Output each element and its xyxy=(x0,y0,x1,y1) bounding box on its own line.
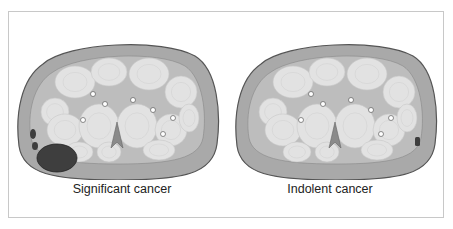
vessel xyxy=(151,108,156,113)
bowel-loop xyxy=(273,66,313,98)
bowel-loop xyxy=(347,58,387,90)
caption-indolent: Indolent cancer xyxy=(221,182,439,196)
vessel xyxy=(91,92,96,97)
bowel-loop xyxy=(179,104,199,132)
lesion-small xyxy=(30,129,36,139)
vessel xyxy=(81,118,86,123)
panel-indolent-cancer: Indolent cancer xyxy=(227,12,445,217)
bowel-loop xyxy=(47,114,83,146)
vessel xyxy=(349,98,354,103)
caption-significant: Significant cancer xyxy=(13,182,231,196)
vessel xyxy=(161,132,166,137)
bowel-loop xyxy=(315,142,339,162)
vessel xyxy=(309,92,314,97)
bowel-loop xyxy=(265,114,301,146)
bowel-loop xyxy=(129,58,169,90)
vessel xyxy=(379,132,384,137)
bowel-loop xyxy=(143,140,175,160)
bowel-loop xyxy=(361,140,393,160)
panel-significant-cancer: Significant cancer xyxy=(9,12,227,217)
bowel-loop xyxy=(309,58,345,86)
bowel-loop xyxy=(91,58,127,86)
figure-frame: Significant cancer Indolent cancer xyxy=(8,11,444,218)
vessel xyxy=(103,102,108,107)
cross-section-significant xyxy=(13,34,223,180)
vessel xyxy=(369,108,374,113)
vessel xyxy=(131,98,136,103)
cross-section-indolent xyxy=(231,34,441,180)
vessel xyxy=(321,102,326,107)
vessel xyxy=(299,118,304,123)
bowel-loop xyxy=(55,66,95,98)
lesion-large xyxy=(37,144,77,172)
bowel-loop xyxy=(397,104,417,132)
bowel-loop xyxy=(283,142,311,162)
vessel xyxy=(171,116,176,121)
lesion-small xyxy=(415,137,420,146)
bowel-loop xyxy=(97,142,121,162)
lesion-small-2 xyxy=(32,142,38,150)
bowel-loop xyxy=(383,76,415,108)
vessel xyxy=(389,116,394,121)
bowel-loop xyxy=(165,76,197,108)
